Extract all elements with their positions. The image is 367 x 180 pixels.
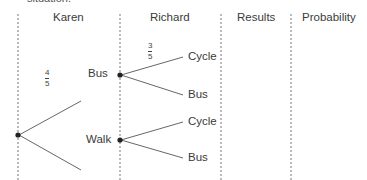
fraction-karen-bus: 45 [45, 69, 49, 88]
branch-karen-walk [19, 135, 81, 170]
header-results: Results [237, 11, 275, 23]
label-walk-cycle: Cycle [188, 115, 217, 127]
root-node [15, 132, 20, 137]
branch-bus-bus [121, 75, 183, 95]
header-probability: Probability [302, 11, 356, 23]
bus-node [117, 72, 122, 77]
label-bus-bus: Bus [188, 88, 208, 100]
header-karen: Karen [53, 11, 84, 23]
walk-node [117, 137, 122, 142]
branch-karen-bus [19, 101, 81, 135]
label-bus-cycle: Cycle [188, 50, 217, 62]
branch-walk-cycle [121, 122, 183, 140]
header-richard: Richard [150, 11, 190, 23]
tree-diagram [0, 0, 367, 180]
fraction-richard-cycle: 35 [148, 42, 152, 61]
label-karen-walk: Walk [86, 133, 111, 145]
label-karen-bus: Bus [88, 67, 108, 79]
branch-walk-bus [121, 140, 183, 158]
label-walk-bus: Bus [188, 151, 208, 163]
